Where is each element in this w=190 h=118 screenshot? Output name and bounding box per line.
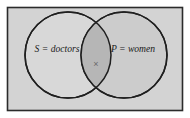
set-label-right: P = women [110,43,155,54]
venn-diagram-figure: S = doctors P = women × [0,0,190,118]
cross-mark: × [93,59,98,69]
set-label-left: S = doctors [35,43,80,54]
venn-diagram-canvas: S = doctors P = women × [0,0,190,118]
